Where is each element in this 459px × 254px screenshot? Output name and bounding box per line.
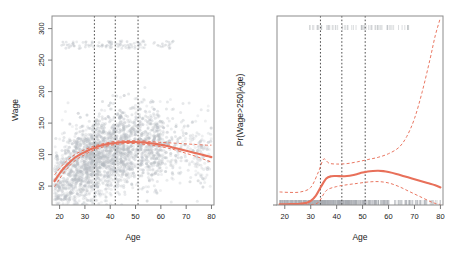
svg-text:20: 20 bbox=[55, 212, 63, 221]
svg-text:40: 40 bbox=[106, 212, 114, 221]
y-axis-title: Pr(Wage>250|Age) bbox=[235, 74, 245, 147]
x-axis-title: Age bbox=[125, 232, 140, 242]
svg-text:60: 60 bbox=[157, 212, 165, 221]
svg-text:50: 50 bbox=[37, 182, 46, 190]
svg-text:150: 150 bbox=[37, 117, 46, 130]
svg-text:80: 80 bbox=[436, 212, 444, 221]
svg-text:50: 50 bbox=[358, 212, 366, 221]
svg-text:40: 40 bbox=[332, 212, 340, 221]
fitted-curve bbox=[280, 171, 441, 204]
figure-container: 20304050607080 50100150200250300 Age Wag… bbox=[0, 0, 459, 254]
svg-text:200: 200 bbox=[37, 85, 46, 98]
wage-scatter-plot: 20304050607080 50100150200250300 Age Wag… bbox=[0, 0, 229, 254]
svg-text:70: 70 bbox=[410, 212, 418, 221]
svg-text:60: 60 bbox=[384, 212, 392, 221]
panel-probability-curve: 20304050607080 Age Pr(Wage>250|Age) bbox=[229, 0, 458, 254]
svg-text:20: 20 bbox=[281, 212, 289, 221]
svg-text:30: 30 bbox=[81, 212, 89, 221]
svg-text:30: 30 bbox=[307, 212, 315, 221]
y-axis: 50100150200250300 bbox=[37, 22, 52, 190]
rug-marks-top bbox=[310, 25, 409, 30]
svg-text:250: 250 bbox=[37, 54, 46, 67]
confidence-band-upper bbox=[280, 18, 441, 193]
panel-wage-scatter: 20304050607080 50100150200250300 Age Wag… bbox=[0, 0, 229, 254]
svg-text:100: 100 bbox=[37, 148, 46, 161]
x-axis: 20304050607080 bbox=[281, 205, 445, 221]
svg-text:80: 80 bbox=[207, 212, 215, 221]
svg-text:70: 70 bbox=[182, 212, 190, 221]
scatter-points-layer bbox=[53, 39, 213, 206]
svg-text:300: 300 bbox=[37, 22, 46, 35]
svg-text:50: 50 bbox=[131, 212, 139, 221]
x-axis-title: Age bbox=[352, 232, 367, 242]
y-axis-title: Wage bbox=[10, 99, 20, 121]
x-axis: 20304050607080 bbox=[55, 205, 215, 221]
plot-frame bbox=[277, 16, 443, 205]
probability-plot: 20304050607080 Age Pr(Wage>250|Age) bbox=[229, 0, 459, 254]
